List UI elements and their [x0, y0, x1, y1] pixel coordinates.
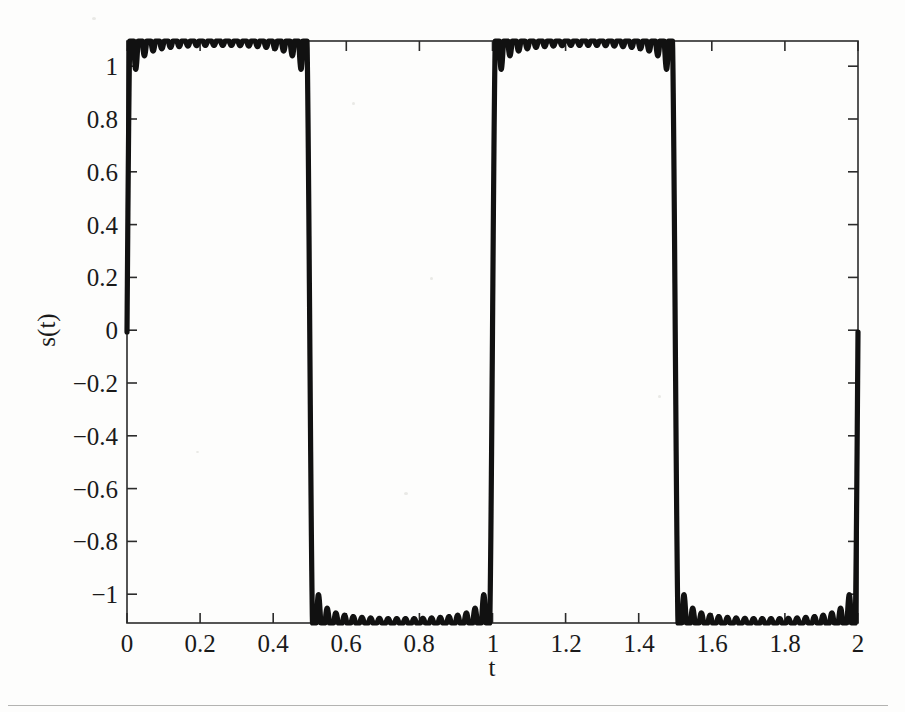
ytick-label-0p2: 0.2 — [87, 265, 118, 290]
xtick-label-2: 2 — [852, 631, 865, 656]
ytick-label-1: 1 — [106, 54, 119, 79]
xtick-label-0p8: 0.8 — [403, 631, 434, 656]
ytick-label-m0p4: −0.4 — [73, 424, 118, 449]
ytick-label-m1: −1 — [91, 582, 118, 607]
xtick-label-0p6: 0.6 — [330, 631, 361, 656]
ytick-label-0: 0 — [106, 318, 119, 343]
square-wave-trace — [127, 41, 858, 623]
page-bottom-rule — [8, 705, 888, 706]
xtick-label-1p4: 1.4 — [623, 631, 654, 656]
scan-speck — [658, 395, 661, 398]
scan-speck — [352, 102, 355, 105]
ytick-label-0p6: 0.6 — [87, 160, 118, 185]
y-axis-title: s(t) — [34, 313, 59, 346]
xtick-label-0p4: 0.4 — [257, 631, 288, 656]
ytick-label-0p8: 0.8 — [87, 107, 118, 132]
ytick-label-m0p2: −0.2 — [73, 371, 118, 396]
figure-page: 1 0.8 0.6 0.4 0.2 0 −0.2 −0.4 −0.6 −0.8 … — [0, 0, 905, 712]
square-wave-chart: 1 0.8 0.6 0.4 0.2 0 −0.2 −0.4 −0.6 −0.8 … — [0, 0, 905, 690]
scan-speck — [92, 17, 96, 20]
ytick-label-m0p8: −0.8 — [73, 529, 118, 554]
xtick-label-0p2: 0.2 — [184, 631, 215, 656]
scan-speck — [430, 277, 433, 280]
ytick-label-m0p6: −0.6 — [73, 477, 118, 502]
plot-canvas — [0, 0, 905, 690]
xtick-label-0: 0 — [121, 631, 134, 656]
scan-speck — [196, 451, 199, 453]
xtick-label-1: 1 — [487, 631, 500, 656]
x-axis-title: t — [489, 655, 496, 680]
xtick-label-1p2: 1.2 — [550, 631, 581, 656]
scan-speck — [404, 492, 408, 495]
ytick-label-0p4: 0.4 — [87, 213, 118, 238]
xtick-label-1p6: 1.6 — [696, 631, 727, 656]
xtick-label-1p8: 1.8 — [769, 631, 800, 656]
